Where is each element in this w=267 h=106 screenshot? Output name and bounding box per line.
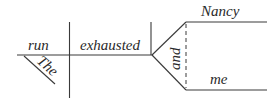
word-exhausted: exhausted [80, 37, 140, 53]
sentence-diagram: run The exhausted and Nancy me [0, 0, 267, 106]
word-nancy: Nancy [200, 3, 240, 19]
word-and: and [167, 47, 183, 70]
word-the: The [34, 52, 62, 79]
word-run: run [28, 37, 49, 53]
word-me: me [210, 71, 228, 87]
